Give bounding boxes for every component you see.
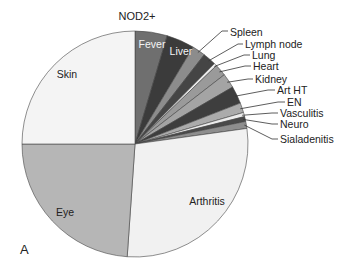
slice-label-heart: Heart (253, 60, 279, 72)
leader-line-en (240, 102, 285, 109)
chart-title: NOD2+ (119, 10, 156, 22)
pie-slice-eye (22, 144, 135, 257)
slice-label-fever: Fever (139, 38, 166, 50)
leader-line-art-ht (235, 90, 275, 96)
leader-line-sialadenitis (244, 125, 278, 139)
pie-slices (22, 31, 248, 257)
slice-label-arthritis: Arthritis (189, 195, 225, 207)
leader-line-spleen (198, 31, 228, 53)
leader-line-lymph-node (209, 44, 243, 61)
pie-slice-skin (22, 31, 135, 144)
panel-label: A (20, 242, 29, 257)
slice-label-eye: Eye (56, 206, 74, 218)
leader-line-neuro (243, 119, 278, 124)
leader-line-vasculitis (242, 113, 278, 115)
leader-line-heart (219, 66, 251, 72)
pie-chart: NOD2+ FeverLiverSpleenLymph nodeLungHear… (0, 0, 351, 272)
slice-label-liver: Liver (170, 45, 193, 57)
slice-label-sialadenitis: Sialadenitis (280, 133, 334, 145)
slice-label-art-ht: Art HT (277, 84, 308, 96)
slice-label-spleen: Spleen (230, 26, 263, 38)
slice-label-neuro: Neuro (280, 118, 309, 130)
pie-slice-arthritis (127, 128, 248, 257)
leader-line-kidney (227, 79, 253, 82)
slice-label-skin: Skin (57, 68, 78, 80)
leader-line-lung (214, 55, 250, 66)
